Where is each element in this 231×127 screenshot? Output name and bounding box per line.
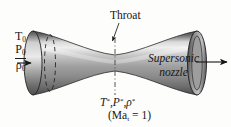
throat-label: Throat <box>110 9 141 21</box>
nozzle-figure: T0 P0 ρ0 Throat Supersonic nozzle T*,P*,… <box>0 0 231 127</box>
stagnation-temperature-label: T0 <box>15 30 26 43</box>
inlet-stagnation-properties: T0 P0 ρ0 <box>15 30 26 72</box>
stagnation-pressure-label: P0 <box>15 43 26 56</box>
throat-star-properties: T*,P*,ρ* <box>100 96 135 108</box>
throat-mach-number-label: (Mat = 1) <box>108 109 151 123</box>
supersonic-nozzle-label: Supersonic nozzle <box>148 52 199 79</box>
stagnation-density-label: ρ0 <box>15 58 26 72</box>
nozzle-label-line1: Supersonic <box>148 52 199 64</box>
nozzle-label-line2: nozzle <box>159 66 188 78</box>
throat-leader-line <box>113 23 120 41</box>
